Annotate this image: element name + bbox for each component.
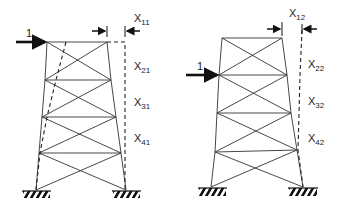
- displacement-label-x32: X32: [308, 95, 325, 110]
- frame-1: 1 X11 X21 X31 X41: [16, 12, 151, 198]
- truss-tower-diagram: 1 X11 X21 X31 X41: [0, 0, 341, 210]
- left-leg: [36, 42, 47, 190]
- deflected-shape-line: [36, 42, 66, 190]
- left-leg: [211, 38, 222, 187]
- cross-bracing: [211, 38, 303, 187]
- cross-bracing: [36, 42, 126, 190]
- right-leg: [107, 42, 126, 190]
- fixed-support-icon: [23, 191, 50, 198]
- displacement-label-x11: X11: [134, 12, 150, 27]
- displacement-label-x12: X12: [289, 7, 306, 22]
- displacement-label-x21: X21: [134, 60, 151, 75]
- fixed-support-icon: [199, 188, 226, 196]
- load-label: 1: [197, 60, 203, 72]
- displacement-label-x42: X42: [308, 132, 325, 147]
- displacement-label-x41: X41: [134, 132, 151, 147]
- displacement-label-x22: X22: [308, 58, 325, 73]
- fixed-support-icon: [289, 188, 317, 196]
- fixed-support-icon: [113, 191, 140, 198]
- horizontal-member: [215, 150, 297, 152]
- frame-2: 1 X12 X22 X32 X42: [186, 7, 325, 196]
- displacement-label-x31: X31: [134, 96, 151, 111]
- load-label: 1: [26, 27, 32, 39]
